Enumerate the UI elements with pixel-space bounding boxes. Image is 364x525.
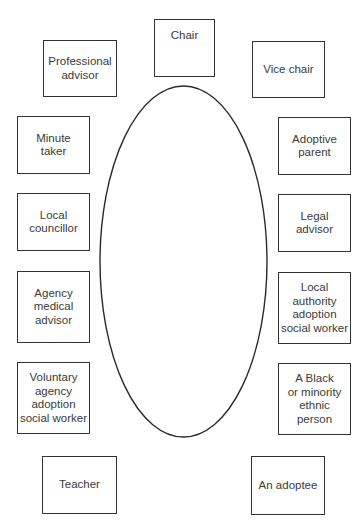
seat-label: Vice chair [263, 63, 313, 77]
seat-label: A Black or minority ethnic person [288, 372, 342, 426]
seat-label: Voluntary agency adoption social worker [20, 371, 87, 425]
seat-label: Chair [171, 29, 198, 43]
seat-chair: Chair [154, 19, 215, 77]
seat-legal-advisor: Legal advisor [278, 194, 351, 252]
seat-teacher: Teacher [42, 456, 117, 514]
seat-label: Minute taker [36, 132, 71, 159]
seat-minute-taker: Minute taker [17, 116, 90, 174]
seat-label: Agency medical advisor [34, 287, 74, 328]
oval-table [100, 86, 267, 437]
seat-adoptive-parent: Adoptive parent [278, 117, 351, 175]
seat-local-authority-adoption-social-worker: Local authority adoption social worker [278, 272, 351, 344]
seat-label: Adoptive parent [292, 133, 337, 160]
seat-professional-advisor: Professional advisor [43, 40, 117, 97]
seat-adoptee: An adoptee [251, 456, 325, 515]
seat-vice-chair: Vice chair [252, 41, 325, 98]
seat-black-or-minority-ethnic-person: A Black or minority ethnic person [278, 363, 351, 435]
seat-label: Legal advisor [296, 210, 333, 237]
seat-label: An adoptee [259, 479, 318, 493]
seat-local-councillor: Local councillor [17, 193, 90, 251]
seat-label: Local authority adoption social worker [281, 281, 348, 335]
seat-label: Teacher [59, 478, 100, 492]
seat-label: Professional advisor [48, 55, 111, 82]
seat-agency-medical-advisor: Agency medical advisor [17, 271, 90, 343]
seat-voluntary-agency-adoption-social-worker: Voluntary agency adoption social worker [17, 362, 90, 434]
seat-label: Local councillor [29, 209, 78, 236]
